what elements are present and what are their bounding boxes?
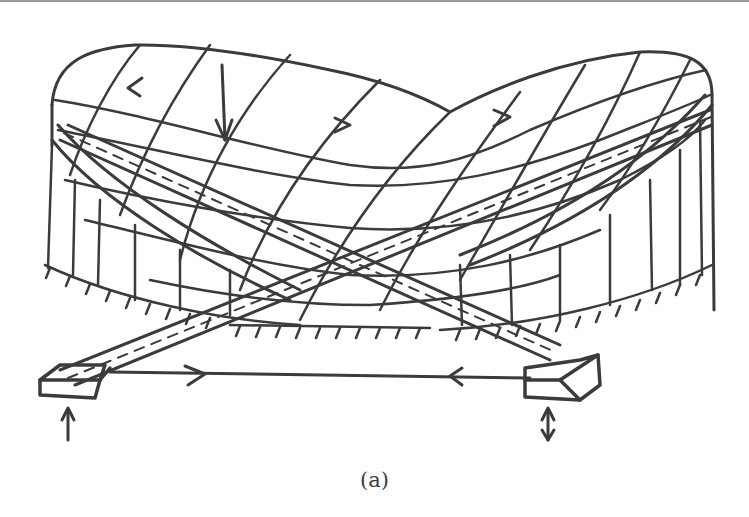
figure-caption: (a)	[0, 468, 749, 492]
right-support	[525, 355, 600, 400]
tie-cable	[110, 366, 530, 385]
left-support	[40, 365, 110, 398]
left-tension-arrowhead	[128, 78, 142, 96]
downward-load-arrow	[222, 65, 225, 140]
cable-net-roof-sketch	[0, 0, 749, 517]
tie-arrow-right	[185, 366, 205, 385]
roof-grid-transverse	[70, 45, 690, 320]
roof-outline	[52, 45, 714, 310]
reaction-arrows	[62, 408, 554, 440]
